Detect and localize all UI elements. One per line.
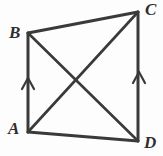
- geometry-figure: B C A D: [0, 0, 163, 156]
- vertex-label-A: A: [8, 120, 19, 137]
- side-AD: [28, 132, 138, 141]
- diagonal-BD: [28, 33, 138, 141]
- vertex-label-D: D: [144, 134, 156, 151]
- figure-canvas: [0, 0, 163, 156]
- vertex-label-B: B: [9, 24, 20, 41]
- vertex-label-C: C: [145, 1, 156, 18]
